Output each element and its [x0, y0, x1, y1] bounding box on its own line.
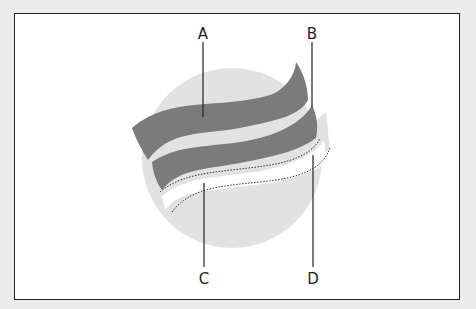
label-d: D: [307, 270, 319, 288]
label-b: B: [307, 25, 317, 43]
label-c: C: [199, 270, 209, 288]
label-a: A: [198, 25, 208, 43]
diagram-illustration: [0, 0, 476, 309]
